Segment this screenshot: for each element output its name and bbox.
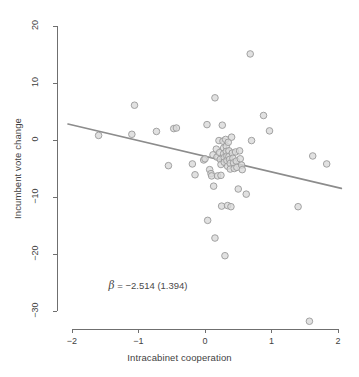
- data-point: [212, 235, 219, 242]
- data-point: [228, 203, 235, 210]
- y-tick-label: −30: [30, 296, 40, 324]
- data-point: [237, 156, 244, 163]
- data-point: [306, 318, 313, 325]
- x-tick-label: 2: [326, 336, 350, 346]
- data-point: [192, 171, 199, 178]
- data-point: [219, 122, 226, 129]
- data-point: [309, 153, 316, 160]
- chart-canvas: [0, 0, 359, 377]
- data-point: [202, 156, 209, 163]
- data-point: [173, 125, 180, 132]
- data-point: [189, 161, 196, 168]
- data-point: [243, 191, 250, 198]
- data-point: [204, 121, 211, 128]
- y-axis-title: Incumbent vote change: [12, 89, 23, 249]
- data-point: [247, 51, 254, 58]
- data-point: [153, 128, 160, 135]
- y-tick-label: 10: [30, 68, 40, 96]
- data-point: [222, 252, 229, 259]
- scatter-plot-figure: Intracabinet cooperation Incumbent vote …: [0, 0, 359, 377]
- y-tick-label: −20: [30, 239, 40, 267]
- x-axis-title: Intracabinet cooperation: [0, 352, 359, 363]
- beta-value-text: = −2.514 (1.394): [115, 280, 188, 291]
- data-point: [95, 132, 102, 139]
- data-point: [235, 186, 242, 193]
- data-point: [260, 112, 267, 119]
- y-tick-label: −10: [30, 182, 40, 210]
- beta-coefficient-annotation: β = −2.514 (1.394): [109, 279, 188, 291]
- data-point: [295, 203, 302, 210]
- x-tick-label: −1: [127, 336, 151, 346]
- y-tick-label: 20: [30, 11, 40, 39]
- data-point: [266, 128, 273, 135]
- data-point: [210, 183, 217, 190]
- data-point: [165, 162, 172, 169]
- data-point: [204, 217, 211, 224]
- x-tick-label: 0: [193, 336, 217, 346]
- data-point: [228, 134, 235, 141]
- y-tick-label: 0: [30, 125, 40, 153]
- x-tick-label: −2: [60, 336, 84, 346]
- data-point: [236, 148, 243, 155]
- data-point: [212, 95, 219, 102]
- data-point: [323, 161, 330, 168]
- x-tick-label: 1: [260, 336, 284, 346]
- data-point: [248, 137, 255, 144]
- axes-group: [53, 26, 338, 333]
- data-point: [131, 102, 138, 109]
- data-point: [239, 166, 246, 173]
- data-point: [218, 172, 225, 179]
- data-point: [129, 131, 136, 138]
